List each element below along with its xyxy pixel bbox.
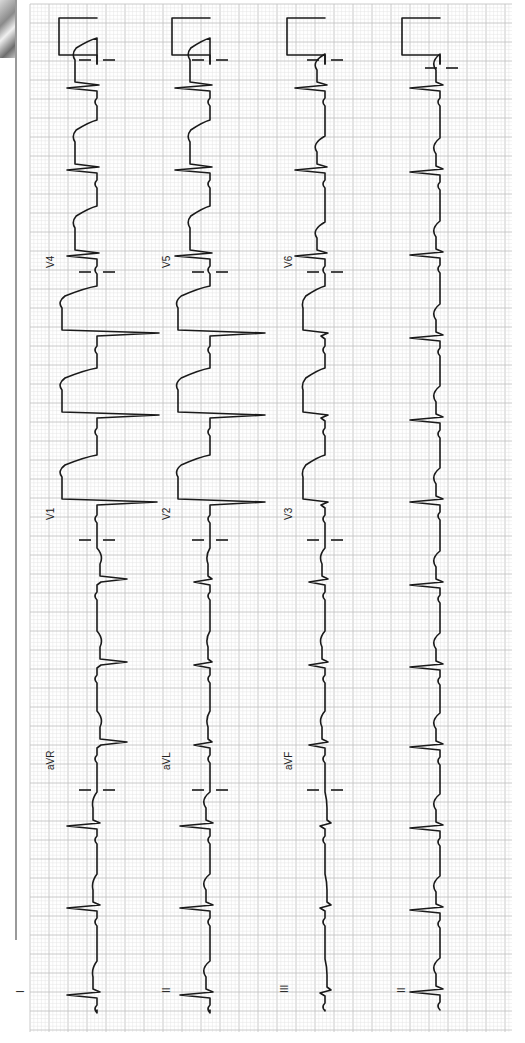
lead-label-v6: V6 — [283, 255, 294, 268]
ecg-grid — [30, 4, 512, 1032]
lead-label-v1: V1 — [45, 507, 56, 520]
lead-label-avr: aVR — [45, 751, 56, 770]
lead-label-v3: V3 — [283, 507, 294, 520]
lead-label-ii: II — [161, 987, 172, 993]
ecg-chart: IIIIIIIIaVRaVLaVFV1V2V3V4V5V6 — [0, 0, 525, 1043]
lead-label-ii: II — [396, 987, 407, 993]
lead-label-avf: aVF — [283, 752, 294, 770]
lead-label-avl: aVL — [161, 752, 172, 770]
lead-label-v4: V4 — [45, 255, 56, 268]
lead-label-iii: III — [279, 985, 290, 993]
lead-label-v2: V2 — [161, 507, 172, 520]
lead-label-i: I — [15, 990, 26, 993]
lead-label-v5: V5 — [161, 255, 172, 268]
lead-labels: IIIIIIIIaVRaVLaVFV1V2V3V4V5V6 — [15, 255, 407, 993]
